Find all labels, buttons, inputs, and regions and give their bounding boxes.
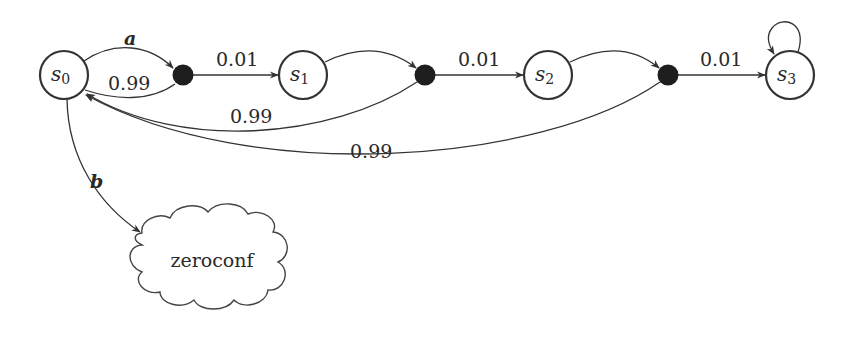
state-s3: s3 <box>766 51 814 99</box>
choice-node-2 <box>415 65 436 86</box>
edge-s0-to-choice1 <box>84 48 173 68</box>
prob-label-choice3-s3: 0.01 <box>700 48 742 70</box>
edge-s0-to-zeroconf <box>67 99 140 232</box>
edge-s1-to-choice2 <box>325 51 416 68</box>
state-s0: s0 <box>40 51 88 99</box>
action-b-label: b <box>90 170 103 192</box>
prob-label-choice2-s0: 0.99 <box>230 105 272 127</box>
edge-s3-self-loop <box>768 22 800 54</box>
state-s1: s1 <box>279 51 327 99</box>
choice-node-3 <box>658 65 679 86</box>
action-a-label: a <box>124 27 136 49</box>
prob-label-choice1-s1: 0.01 <box>216 48 258 70</box>
state-s2: s2 <box>524 51 572 99</box>
edge-s2-to-choice3 <box>570 51 659 68</box>
prob-label-choice1-s0: 0.99 <box>108 72 150 94</box>
mdp-diagram: zeroconf s0 s1 s2 s3 a 0.99 0.01 0.99 0.… <box>0 0 850 343</box>
prob-label-choice2-s2: 0.01 <box>458 48 500 70</box>
zeroconf-label: zeroconf <box>170 249 255 271</box>
prob-label-choice3-s0: 0.99 <box>350 140 392 162</box>
choice-node-1 <box>173 65 194 86</box>
